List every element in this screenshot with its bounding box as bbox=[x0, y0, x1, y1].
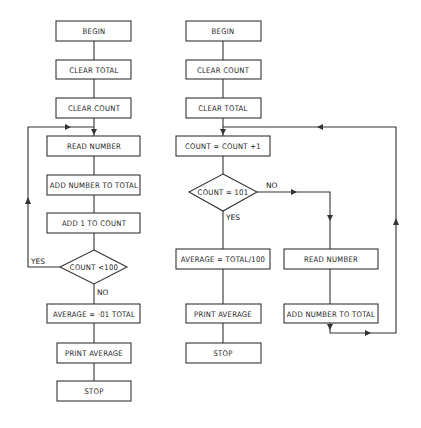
node-label: BEGIN bbox=[83, 27, 106, 36]
node-label: CLEAR COUNT bbox=[68, 104, 121, 113]
node-label: STOP bbox=[213, 349, 232, 358]
node-label: READ NUMBER bbox=[67, 142, 121, 151]
no-branch-connector bbox=[257, 192, 330, 249]
arrow-down-icon bbox=[327, 215, 333, 221]
arrow-down-icon bbox=[91, 129, 97, 135]
node-label: CLEAR TOTAL bbox=[198, 104, 247, 113]
node-label: ADD 1 TO COUNT bbox=[62, 219, 127, 228]
node-label: ADD NUMBER TO TOTAL bbox=[50, 181, 138, 190]
node-label: PRINT AVERAGE bbox=[65, 349, 123, 358]
arrow-right-icon bbox=[65, 124, 71, 130]
decision-label: COUNT = 101 bbox=[198, 188, 249, 197]
yes-label: YES bbox=[225, 213, 240, 222]
left-flowchart: BEGIN CLEAR TOTAL CLEAR COUNT READ NUMBE… bbox=[25, 21, 140, 401]
node-label: BEGIN bbox=[212, 27, 235, 36]
node-label: STOP bbox=[84, 387, 103, 396]
yes-label: YES bbox=[30, 257, 45, 266]
node-label: READ NUMBER bbox=[304, 255, 358, 264]
node-label: COUNT = COUNT +1 bbox=[185, 142, 261, 151]
arrow-right-icon bbox=[365, 330, 371, 336]
no-label: NO bbox=[97, 288, 109, 297]
node-label: CLEAR COUNT bbox=[197, 66, 250, 75]
arrow-up-icon bbox=[393, 218, 399, 225]
arrow-up-icon bbox=[25, 197, 31, 204]
node-label: PRINT AVERAGE bbox=[194, 310, 252, 319]
node-label: ADD NUMBER TO TOTAL bbox=[287, 310, 375, 319]
flowchart-diagram: BEGIN CLEAR TOTAL CLEAR COUNT READ NUMBE… bbox=[0, 0, 421, 428]
arrow-left-icon bbox=[317, 124, 323, 130]
loop-back-connector bbox=[223, 127, 396, 333]
right-flowchart: BEGIN CLEAR COUNT CLEAR TOTAL COUNT = CO… bbox=[176, 21, 399, 363]
node-label: AVERAGE = ·01 TOTAL bbox=[53, 310, 135, 319]
arrow-down-icon bbox=[220, 129, 226, 135]
arrow-down-icon bbox=[327, 324, 333, 330]
no-label: NO bbox=[266, 181, 278, 190]
node-label: CLEAR TOTAL bbox=[69, 66, 118, 75]
node-label: AVERAGE = TOTAL/100 bbox=[181, 255, 265, 264]
decision-label: COUNT <100 bbox=[70, 263, 118, 272]
arrow-right-icon bbox=[291, 189, 297, 195]
